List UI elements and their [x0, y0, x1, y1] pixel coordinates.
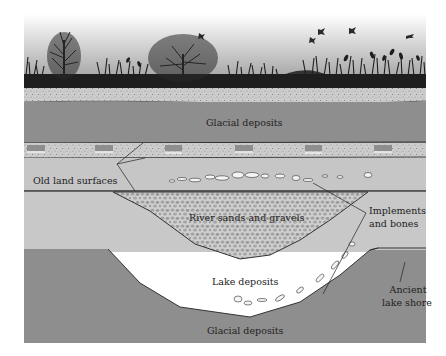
label-implements-2: and bones	[369, 218, 418, 229]
topsoil-layer	[24, 88, 426, 102]
label-ancient-1: Ancient	[383, 284, 433, 295]
old-land-surface-band	[24, 143, 426, 158]
label-river-sands: River sands and gravels	[189, 212, 304, 223]
label-implements-1: Implements	[369, 205, 426, 216]
vegetation-base	[24, 74, 426, 89]
label-glacial-lower: Glacial deposits	[207, 325, 283, 336]
label-glacial-upper: Glacial deposits	[206, 117, 282, 128]
label-old-land-surfaces: Old land surfaces	[33, 175, 117, 186]
label-ancient-2: lake shore	[374, 297, 440, 308]
label-lake-deposits: Lake deposits	[212, 276, 278, 287]
